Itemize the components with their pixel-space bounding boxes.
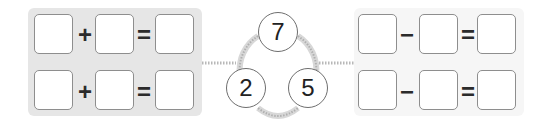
minus-sign: −: [397, 80, 417, 104]
subtrahend-box-row-1[interactable]: [419, 14, 458, 54]
minuend-box-row-2[interactable]: [358, 70, 397, 110]
part-circle-left: 2: [226, 68, 266, 108]
equals-sign: =: [134, 23, 154, 47]
equals-sign: =: [134, 80, 154, 104]
equals-sign: =: [458, 23, 478, 47]
addend-1-box-row-1[interactable]: [34, 14, 73, 54]
part-circle-right: 5: [288, 68, 328, 108]
subtraction-panel: − = − =: [354, 8, 524, 116]
equals-sign: =: [458, 80, 478, 104]
addition-panel: + = + =: [28, 8, 202, 116]
addend-2-box-row-2[interactable]: [95, 70, 134, 110]
minus-sign: −: [397, 23, 417, 47]
plus-sign: +: [75, 80, 95, 104]
minuend-box-row-1[interactable]: [358, 14, 397, 54]
sum-box-row-1[interactable]: [155, 14, 194, 54]
sum-box-row-2[interactable]: [155, 70, 194, 110]
difference-box-row-2[interactable]: [477, 70, 516, 110]
subtrahend-box-row-2[interactable]: [419, 70, 458, 110]
difference-box-row-1[interactable]: [477, 14, 516, 54]
whole-circle: 7: [258, 12, 298, 52]
plus-sign: +: [75, 23, 95, 47]
addend-1-box-row-2[interactable]: [34, 70, 73, 110]
addend-2-box-row-1[interactable]: [95, 14, 134, 54]
